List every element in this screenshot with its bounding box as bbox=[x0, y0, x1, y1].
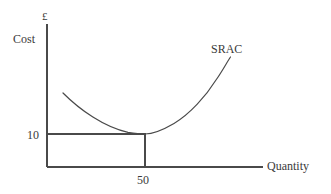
srac-curve-label: SRAC bbox=[211, 43, 242, 55]
srac-curve bbox=[63, 57, 231, 134]
economics-cost-curve-figure: £ Cost SRAC 10 50 Quantity bbox=[0, 0, 331, 194]
y-axis-tick-label-10: 10 bbox=[27, 129, 39, 141]
y-axis-unit-label: £ bbox=[42, 11, 48, 22]
x-axis-tick-label-50: 50 bbox=[137, 174, 149, 186]
x-axis-title: Quantity bbox=[267, 160, 309, 172]
y-axis-title: Cost bbox=[13, 33, 35, 45]
